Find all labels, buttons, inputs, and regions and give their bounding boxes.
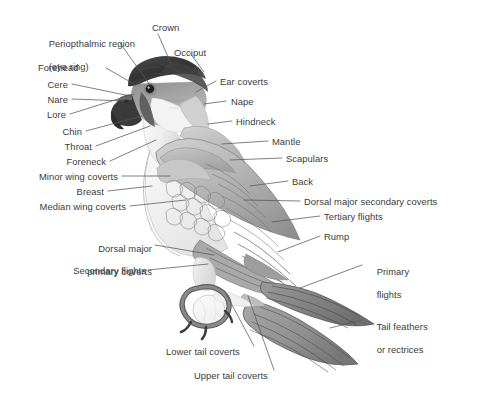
label-cere: Cere (0, 79, 68, 91)
label-mantle: Mantle (272, 136, 300, 148)
label-hindneck: Hindneck (236, 116, 275, 128)
leader-primary-flights (300, 265, 362, 288)
label-median-wing-coverts: Median wing coverts (0, 201, 126, 213)
label-dorsal-major-secondary-coverts: Dorsal major secondary coverts (304, 196, 437, 208)
label-crown: Crown (152, 22, 179, 34)
label-primary-flights-line1: Primary (377, 266, 410, 277)
eye-highlight (148, 87, 150, 89)
label-rump: Rump (324, 231, 349, 243)
label-lore: Lore (0, 109, 66, 121)
label-dmpc-line1: Dorsal major (98, 243, 152, 254)
label-primary-flights-line2: flights (377, 289, 402, 300)
leader-cere (72, 84, 130, 96)
label-periopthalmic-region: Periopthalmic region (eye ring) (38, 26, 135, 84)
label-secondary-flights: Secondary flights (0, 265, 146, 277)
leader-hindneck (208, 121, 232, 124)
label-back: Back (292, 176, 313, 188)
label-tail-feathers-line2: or rectrices (377, 344, 424, 355)
label-lower-tail-coverts: Lower tail coverts (166, 346, 240, 358)
label-nare: Nare (0, 94, 68, 106)
label-minor-wing-coverts: Minor wing coverts (0, 171, 118, 183)
label-ear-coverts: Ear coverts (220, 76, 268, 88)
label-scapulars: Scapulars (286, 153, 328, 165)
label-tail-feathers-line1: Tail feathers (376, 321, 427, 332)
label-occiput: Occiput (174, 47, 206, 59)
label-periopthalmic-line1: Periopthalmic region (49, 38, 135, 49)
label-chin: Chin (0, 126, 82, 138)
label-forehead: Forehead (38, 62, 79, 74)
label-primary-flights: Primary flights (366, 254, 409, 312)
label-tertiary-flights: Tertiary flights (324, 211, 383, 223)
label-breast: Breast (0, 186, 104, 198)
label-nape: Nape (231, 96, 254, 108)
eye (146, 85, 155, 94)
label-throat: Throat (0, 141, 92, 153)
bird-anatomy-diagram: Periopthalmic region (eye ring) Forehead… (0, 0, 480, 398)
label-dorsal-major-primary-coverts: Dorsal major primary coverts (0, 231, 152, 289)
label-tail-feathers-or-rectrices: Tail feathers or rectrices (366, 309, 428, 367)
leader-nape (204, 101, 226, 104)
label-foreneck: Foreneck (0, 156, 106, 168)
label-upper-tail-coverts: Upper tail coverts (194, 370, 268, 382)
